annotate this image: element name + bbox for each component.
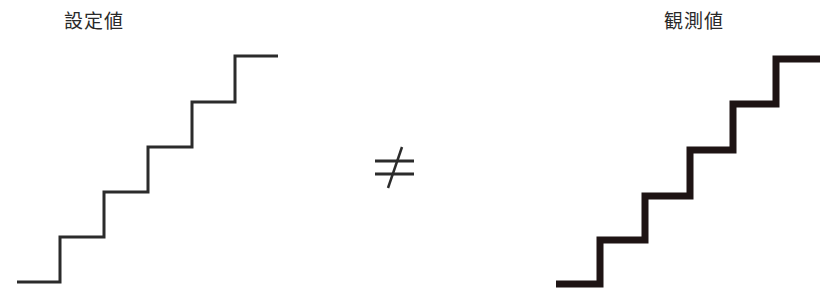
setpoint-staircase-line: [17, 56, 278, 282]
observed-staircase-line: [556, 59, 820, 284]
not-equal-icon: [375, 147, 414, 188]
staircase-comparison-diagram: [0, 0, 824, 298]
